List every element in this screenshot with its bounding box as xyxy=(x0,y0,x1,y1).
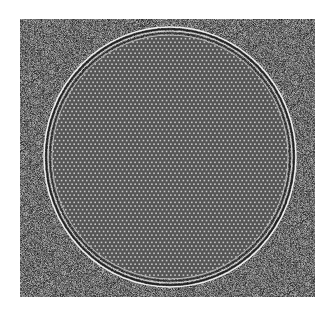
micrograph-image xyxy=(0,0,335,316)
